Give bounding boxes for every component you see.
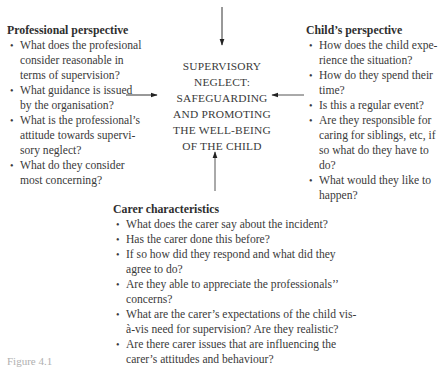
- childs-perspective-panel: Child’s perspective •How does the child …: [306, 23, 441, 203]
- question-list: •What does the profesional consider reas…: [7, 38, 145, 188]
- panel-title: Child’s perspective: [306, 23, 441, 38]
- list-item: •What does the carer say about the incid…: [113, 217, 363, 232]
- list-item: •What is the professional’s attitude tow…: [7, 113, 145, 158]
- center-line: AND PROMOTING: [160, 106, 284, 122]
- question-text: What would they like to happen?: [319, 174, 431, 202]
- central-concept: SUPERVISORY NEGLECT: SAFEGUARDING AND PR…: [160, 58, 284, 154]
- bullet-icon: •: [309, 173, 313, 188]
- list-item: •What guidance is issued by the organisa…: [7, 83, 145, 113]
- question-text: How does the child expe-rience the situa…: [319, 39, 437, 67]
- bullet-icon: •: [116, 277, 120, 292]
- bullet-icon: •: [116, 307, 120, 322]
- center-line: SAFEGUARDING: [160, 90, 284, 106]
- question-text: Has the carer done this before?: [126, 233, 270, 246]
- figure-caption: Figure 4.1: [7, 355, 52, 367]
- bullet-icon: •: [10, 83, 14, 98]
- list-item: •How do they spend their time?: [306, 68, 441, 98]
- panel-title: Carer characteristics: [113, 202, 363, 217]
- bullet-icon: •: [116, 337, 120, 352]
- question-text: Are they able to appreciate the professi…: [126, 278, 338, 306]
- question-text: What does the carer say about the incide…: [126, 218, 328, 231]
- center-line: SUPERVISORY: [160, 58, 284, 74]
- question-list: •How does the child expe-rience the situ…: [306, 38, 441, 203]
- bullet-icon: •: [10, 158, 14, 173]
- list-item: •What does the profesional consider reas…: [7, 38, 145, 83]
- list-item: •If so how did they respond and what did…: [113, 247, 363, 277]
- question-text: Are they responsible for caring for sibl…: [319, 114, 436, 172]
- bullet-icon: •: [309, 98, 313, 113]
- panel-title: Professional perspective: [7, 23, 145, 38]
- professional-perspective-panel: Professional perspective •What does the …: [7, 23, 145, 188]
- bullet-icon: •: [10, 113, 14, 128]
- question-text: Is this a regular event?: [319, 99, 424, 112]
- question-text: How do they spend their time?: [319, 69, 433, 97]
- question-list: •What does the carer say about the incid…: [113, 217, 363, 367]
- carer-characteristics-panel: Carer characteristics •What does the car…: [113, 202, 363, 367]
- list-item: •What do they consider most concerning?: [7, 158, 145, 188]
- list-item: •Are there carer issues that are influen…: [113, 337, 363, 367]
- question-text: What do they consider most concerning?: [20, 159, 125, 187]
- question-text: What does the profesional consider reaso…: [20, 39, 141, 82]
- center-line: NEGLECT:: [160, 74, 284, 90]
- question-text: What is the professional’s attitude towa…: [20, 114, 140, 157]
- bullet-icon: •: [116, 232, 120, 247]
- bullet-icon: •: [309, 38, 313, 53]
- bullet-icon: •: [309, 68, 313, 83]
- question-text: If so how did they respond and what did …: [126, 248, 336, 276]
- list-item: •Has the carer done this before?: [113, 232, 363, 247]
- list-item: •Are they able to appreciate the profess…: [113, 277, 363, 307]
- list-item: •What are the carer’s expectations of th…: [113, 307, 363, 337]
- bullet-icon: •: [116, 247, 120, 262]
- question-text: What are the carer’s expectations of the…: [126, 308, 356, 336]
- list-item: •Is this a regular event?: [306, 98, 441, 113]
- bullet-icon: •: [10, 38, 14, 53]
- bullet-icon: •: [116, 217, 120, 232]
- bullet-icon: •: [309, 113, 313, 128]
- list-item: •How does the child expe-rience the situ…: [306, 38, 441, 68]
- question-text: What guidance is issued by the organisat…: [20, 84, 132, 112]
- list-item: •What would they like to happen?: [306, 173, 441, 203]
- question-text: Are there carer issues that are influenc…: [126, 338, 336, 366]
- center-line: THE WELL-BEING: [160, 122, 284, 138]
- center-line: OF THE CHILD: [160, 138, 284, 154]
- list-item: •Are they responsible for caring for sib…: [306, 113, 441, 173]
